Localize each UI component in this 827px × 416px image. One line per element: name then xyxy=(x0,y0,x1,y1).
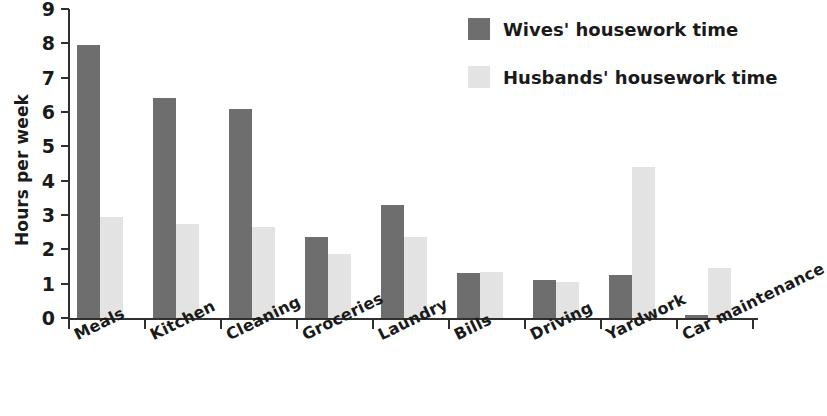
bar-cleaning-wives xyxy=(229,109,252,318)
y-tick-2: 2 xyxy=(61,248,69,250)
y-tick-label: 6 xyxy=(42,103,55,122)
y-tick-8: 8 xyxy=(61,42,69,44)
y-tick-label: 7 xyxy=(42,68,55,87)
legend-item-wives: Wives' housework time xyxy=(468,12,778,46)
x-tick xyxy=(752,320,754,329)
y-axis-line xyxy=(68,9,70,320)
y-tick-label: 9 xyxy=(42,0,55,19)
bar-kitchen-wives xyxy=(153,98,176,318)
x-tick xyxy=(524,320,526,329)
x-tick xyxy=(220,320,222,329)
bar-meals-husbands xyxy=(100,217,123,318)
y-tick-label: 2 xyxy=(42,240,55,259)
x-tick xyxy=(448,320,450,329)
bar-yardwork-husbands xyxy=(632,167,655,318)
y-tick-label: 4 xyxy=(42,171,55,190)
x-tick xyxy=(144,320,146,329)
legend-swatch-wives xyxy=(468,18,490,40)
bar-meals-wives xyxy=(77,45,100,318)
legend-label: Husbands' housework time xyxy=(503,67,778,88)
y-tick-9: 9 xyxy=(61,8,69,10)
x-tick xyxy=(68,320,70,329)
y-tick-3: 3 xyxy=(61,214,69,216)
x-tick xyxy=(600,320,602,329)
y-tick-label: 3 xyxy=(42,206,55,225)
y-tick-4: 4 xyxy=(61,180,69,182)
bar-driving-wives xyxy=(533,280,556,318)
y-tick-0: 0 xyxy=(61,317,69,319)
y-tick-6: 6 xyxy=(61,111,69,113)
y-tick-label: 1 xyxy=(42,274,55,293)
y-tick-label: 8 xyxy=(42,34,55,53)
bar-groceries-wives xyxy=(305,237,328,318)
bar-yardwork-wives xyxy=(609,275,632,318)
legend-swatch-husbands xyxy=(468,66,490,88)
y-tick-5: 5 xyxy=(61,145,69,147)
x-tick xyxy=(372,320,374,329)
y-tick-1: 1 xyxy=(61,283,69,285)
y-tick-label: 5 xyxy=(42,137,55,156)
x-tick xyxy=(676,320,678,329)
chart-legend: Wives' housework timeHusbands' housework… xyxy=(468,12,778,108)
bar-bills-wives xyxy=(457,273,480,318)
y-axis-title: Hours per week xyxy=(12,70,32,270)
legend-label: Wives' housework time xyxy=(503,19,738,40)
y-tick-7: 7 xyxy=(61,77,69,79)
x-tick xyxy=(296,320,298,329)
y-tick-label: 0 xyxy=(42,309,55,328)
legend-item-husbands: Husbands' housework time xyxy=(468,60,778,94)
